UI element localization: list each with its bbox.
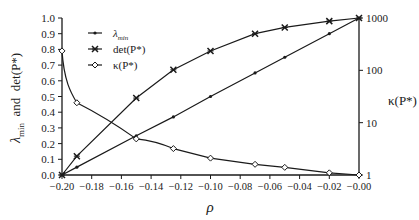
x-tick-label: −0.10 — [198, 181, 222, 192]
y-left-tick-label: 0.5 — [41, 91, 55, 103]
y-left-tick-label: 0.2 — [41, 138, 55, 150]
series-group — [59, 15, 362, 178]
svg-text:λmin: λmin — [112, 27, 129, 42]
x-tick-label: −0.12 — [169, 181, 193, 192]
x-tick-label: −0.00 — [347, 181, 371, 192]
y-left-tick-label: 0.0 — [41, 169, 55, 181]
svg-text:λmin and det(P*): λmin and det(P*) — [8, 53, 26, 144]
legend-item: det(P*) — [88, 43, 146, 56]
legend-item: κ(P*) — [88, 59, 138, 72]
right-axis-label: κ(P*) — [388, 93, 417, 108]
y-left-tick-label: 1.0 — [41, 12, 55, 24]
svg-text:det(P*): det(P*) — [113, 43, 146, 56]
legend-item: λmin — [88, 27, 129, 42]
chart: −0.20−0.18−0.16−0.14−0.12−0.10−0.08−0.06… — [0, 0, 419, 220]
x-tick-label: −0.04 — [287, 181, 312, 192]
x-tick-label: −0.14 — [139, 181, 164, 192]
y-left-tick-label: 0.7 — [41, 59, 55, 71]
x-tick-label: −0.08 — [228, 181, 252, 192]
x-tick-label: −0.06 — [258, 181, 282, 192]
svg-text:κ(P*): κ(P*) — [113, 59, 138, 72]
y-left-tick-label: 0.8 — [41, 43, 55, 55]
y-left-tick-label: 0.3 — [41, 122, 55, 134]
x-tick-label: −0.20 — [50, 181, 74, 192]
y-left-tick-label: 0.6 — [41, 75, 55, 87]
legend: λmindet(P*)κ(P*) — [88, 27, 146, 72]
axes: −0.20−0.18−0.16−0.14−0.12−0.10−0.08−0.06… — [41, 12, 388, 192]
x-tick-label: −0.16 — [109, 181, 133, 192]
x-tick-label: −0.02 — [317, 181, 341, 192]
series-2 — [59, 48, 362, 178]
x-tick-label: −0.18 — [80, 181, 104, 192]
y-left-tick-label: 0.4 — [41, 106, 55, 118]
left-axis-label: λmin and det(P*) — [8, 53, 26, 144]
y-left-tick-label: 0.1 — [41, 153, 55, 165]
y-right-tick-label: 1000 — [366, 12, 389, 24]
x-axis-label: ρ — [205, 199, 213, 215]
y-right-tick-label: 10 — [366, 117, 378, 129]
y-right-tick-label: 100 — [366, 64, 383, 76]
y-left-tick-label: 0.9 — [41, 28, 55, 40]
series-0 — [60, 16, 360, 176]
y-right-tick-label: 1 — [366, 169, 372, 181]
